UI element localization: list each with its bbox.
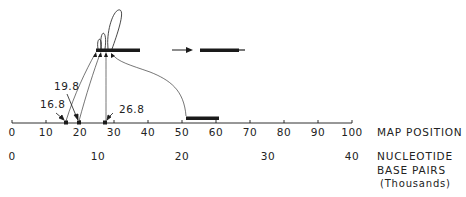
map-axis xyxy=(12,120,352,123)
genome-map-diagram: 16.8 19.8 26.8 0 10 20 30 40 50 60 70 80… xyxy=(0,0,466,197)
nt-tick-10: 10 xyxy=(91,150,105,162)
map-tick-30: 30 xyxy=(107,126,121,138)
thousands-label: (Thousands) xyxy=(380,178,451,189)
marker-label-16-8: 16.8 xyxy=(40,98,65,110)
marker-points xyxy=(64,121,107,125)
map-tick-40: 40 xyxy=(141,126,155,138)
map-tick-20: 20 xyxy=(73,126,87,138)
top-bar xyxy=(96,49,140,53)
nt-tick-40: 40 xyxy=(345,150,359,162)
base-pairs-label: BASE PAIRS xyxy=(377,164,446,176)
map-tick-90: 90 xyxy=(311,126,325,138)
map-tick-100: 100 xyxy=(341,126,363,138)
marker-label-26-8: 26.8 xyxy=(119,103,144,115)
nt-tick-30: 30 xyxy=(261,150,275,162)
map-tick-10: 10 xyxy=(39,126,53,138)
nt-tick-20: 20 xyxy=(175,150,189,162)
transform-arrow xyxy=(172,47,193,53)
marker-label-19-8: 19.8 xyxy=(54,80,79,92)
map-tick-60: 60 xyxy=(209,126,223,138)
top-bar-loops xyxy=(98,10,122,49)
result-bar xyxy=(200,49,239,53)
nt-tick-0: 0 xyxy=(8,150,15,162)
map-tick-80: 80 xyxy=(277,126,291,138)
nucleotide-label: NUCLEOTIDE xyxy=(377,150,453,162)
map-tick-70: 70 xyxy=(243,126,257,138)
map-tick-0: 0 xyxy=(8,126,15,138)
axis-segment-bar xyxy=(186,117,219,121)
map-position-label: MAP POSITION xyxy=(377,126,463,138)
map-tick-50: 50 xyxy=(175,126,189,138)
connector-arrowheads xyxy=(93,52,115,58)
